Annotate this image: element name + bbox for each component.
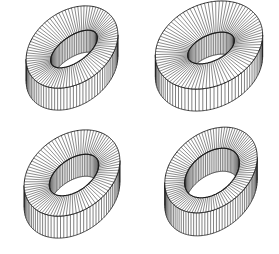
ring-bottom-left — [24, 130, 120, 238]
figure-canvas — [0, 0, 279, 254]
ring-top-left — [26, 6, 118, 110]
ring-bottom-right — [165, 127, 257, 236]
ring-diagram — [0, 0, 279, 254]
ring-top-right — [155, 1, 262, 111]
